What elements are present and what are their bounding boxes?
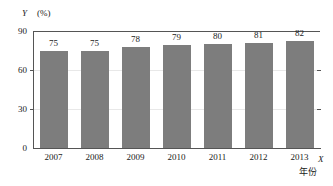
bar-value-label: 79 [157,33,197,42]
x-tick-label: 2010 [155,153,199,162]
bar[interactable] [204,44,232,148]
y-tick-mark [30,70,34,71]
y-tick-mark [30,109,34,110]
x-tick-label: 2009 [114,153,158,162]
bar-value-label: 75 [34,39,74,48]
y-tick-mark-right [317,109,321,110]
bar-chart-figure: Y (%) X 年份 0306090 200720082009201020112… [0,0,333,186]
bar[interactable] [40,51,68,149]
plot-area [33,31,320,148]
bar[interactable] [286,41,314,148]
bar-value-label: 81 [239,31,279,40]
x-tick-label: 2011 [196,153,240,162]
y-axis-title: Y [22,9,27,18]
bar[interactable] [163,45,191,148]
bar-value-label: 80 [198,32,238,41]
bar[interactable] [122,47,150,148]
bar-value-label: 78 [116,35,156,44]
bar-value-label: 82 [280,29,320,38]
x-axis-unit-label: 年份 [299,168,317,177]
x-tick-label: 2013 [278,153,322,162]
x-tick-label: 2012 [237,153,281,162]
bar-value-label: 75 [75,39,115,48]
bar[interactable] [81,51,109,149]
y-tick-mark-right [317,70,321,71]
y-tick-label: 0 [3,144,27,153]
y-tick-label: 60 [3,66,27,75]
y-tick-label: 30 [3,105,27,114]
y-axis-unit-label: (%) [37,9,51,18]
y-tick-label: 90 [3,27,27,36]
bar[interactable] [245,43,273,148]
x-axis-line [33,148,321,149]
x-tick-label: 2007 [32,153,76,162]
x-tick-label: 2008 [73,153,117,162]
